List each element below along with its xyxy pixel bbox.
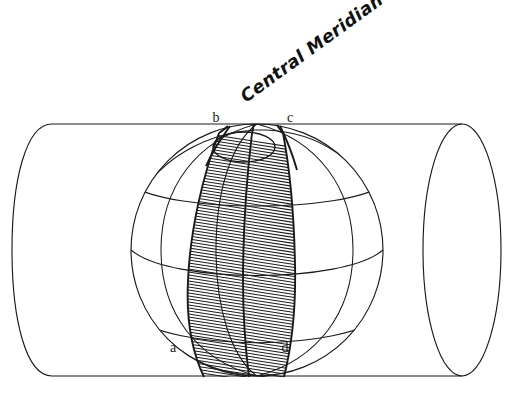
central-meridian-label: Central Meridian	[237, 0, 387, 106]
cylinder-right-end-ellipse	[423, 124, 501, 376]
label-d: d	[282, 340, 289, 355]
label-c: c	[287, 110, 293, 125]
cylinder-left-end-arc	[12, 124, 52, 376]
parallel-equator	[131, 250, 383, 276]
label-b: b	[213, 110, 220, 125]
projection-diagram: b c a d Central Meridian	[0, 0, 514, 408]
label-a: a	[170, 340, 177, 355]
